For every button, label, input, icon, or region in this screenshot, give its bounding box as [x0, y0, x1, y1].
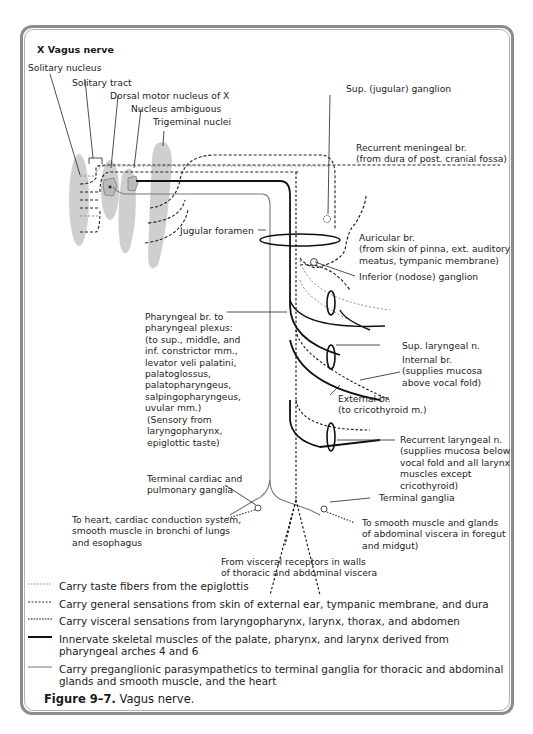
label-solitary-tract: Solitary tract	[72, 77, 132, 88]
legend-swatch-fine-dotted	[26, 580, 54, 587]
ganglia	[255, 216, 331, 513]
label-recurrent-meningeal: Recurrent meningeal br. (from dura of po…	[356, 142, 507, 165]
label-trigeminal-nuclei: Trigeminal nuclei	[153, 116, 231, 127]
legend-swatch-thin-solid	[26, 663, 54, 670]
label-visceral-receptors: From visceral receptors in walls of thor…	[221, 556, 377, 579]
label-external-branch: External br. (to cricothyroid m.)	[338, 393, 427, 416]
terminal-cardiac-ganglion	[255, 505, 261, 511]
caption-text: Vagus nerve.	[119, 692, 194, 706]
label-sup-jugular-ganglion: Sup. (jugular) ganglion	[346, 83, 451, 94]
label-to-smooth-muscle: To smooth muscle and glands of abdominal…	[362, 517, 506, 551]
caption-number: Figure 9–7.	[44, 692, 116, 706]
legend-swatch-dashed-dark	[26, 598, 54, 605]
label-dorsal-motor-nucleus: Dorsal motor nucleus of X	[110, 90, 229, 101]
legend-item-taste: Carry taste fibers from the epiglottis	[26, 580, 506, 593]
label-recurrent-laryngeal: Recurrent laryngeal n. (supplies mucosa …	[400, 434, 510, 491]
legend-item-visceral-sensation: Carry visceral sensations from laryngoph…	[26, 615, 506, 628]
label-internal-branch: Internal br. (supplies mucosa above voca…	[402, 354, 482, 388]
label-inferior-nodose-ganglion: Inferior (nodose) ganglion	[359, 271, 478, 282]
sup-jugular-ganglion	[324, 216, 331, 223]
legend-swatch-thick-solid	[26, 633, 54, 640]
label-pharyngeal-branch: Pharyngeal br. to pharyngeal plexus: (to…	[145, 311, 241, 414]
figure-caption: Figure 9–7. Vagus nerve.	[44, 692, 194, 706]
legend-item-parasympathetic: Carry preganglionic parasympathetics to …	[26, 663, 506, 688]
legend: Carry taste fibers from the epiglottis C…	[26, 580, 506, 693]
label-pharyngeal-sensory: (Sensory from laryngopharynx, epiglottic…	[147, 414, 222, 448]
legend-item-general-sensation: Carry general sensations from skin of ex…	[26, 598, 506, 611]
figure-title: X Vagus nerve	[37, 44, 114, 55]
label-solitary-nucleus: Solitary nucleus	[28, 62, 101, 73]
jugular-foramen-ring	[260, 234, 340, 246]
label-nucleus-ambiguous: Nucleus ambiguous	[131, 103, 221, 114]
legend-item-skeletal-motor: Innervate skeletal muscles of the palate…	[26, 633, 506, 658]
terminal-abdominal-ganglion	[321, 506, 327, 512]
label-sup-laryngeal: Sup. laryngeal n.	[402, 340, 480, 351]
legend-swatch-dashed-black	[26, 615, 54, 622]
inferior-nodose-ganglion	[311, 259, 318, 266]
brainstem-nuclei	[69, 142, 172, 268]
label-auricular-branch: Auricular br. (from skin of pinna, ext. …	[359, 232, 510, 266]
label-terminal-cardiac-ganglia: Terminal cardiac and pulmonary ganglia	[147, 473, 242, 496]
label-terminal-ganglia: Terminal ganglia	[379, 492, 455, 503]
label-jugular-foramen: Jugular foramen	[180, 225, 254, 236]
label-to-heart: To heart, cardiac conduction system, smo…	[72, 514, 241, 548]
